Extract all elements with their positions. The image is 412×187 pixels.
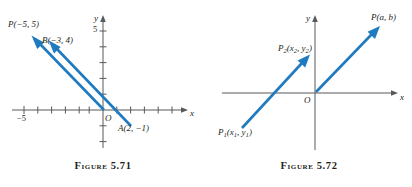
vector-P1P2 — [242, 55, 310, 129]
vector-OP — [32, 36, 105, 111]
point-label-P1: P1(x1, y1) — [218, 128, 252, 138]
point-label-B: B(−3, 4) — [42, 36, 73, 45]
origin-label: O — [105, 114, 112, 123]
y-axis-arrowhead — [100, 15, 106, 22]
x-axis-arrowhead — [181, 107, 188, 113]
figure-5-71: P(−5, 5) B(−3, 4) A(2, −1) y x 5 −5 O Fi… — [0, 0, 206, 187]
x-axis-arrowhead — [391, 90, 398, 96]
x-tick-label-minus5: −5 — [17, 114, 26, 123]
point-label-P1-mid: , y — [237, 127, 246, 137]
y-tick-label-5: 5 — [93, 25, 97, 34]
origin-label: O — [304, 96, 311, 105]
point-label-P2-tail: ) — [309, 43, 312, 53]
point-label-P1-tail: ) — [249, 127, 252, 137]
point-label-P: P(−5, 5) — [8, 20, 39, 29]
point-label-P1-body: (x — [227, 127, 234, 137]
y-axis-label: y — [306, 14, 310, 23]
x-axis-label: x — [400, 93, 404, 102]
vector-AB — [49, 40, 132, 126]
point-label-P: P(a, b) — [371, 13, 396, 22]
figure-pair-container: P(−5, 5) B(−3, 4) A(2, −1) y x 5 −5 O Fi… — [0, 0, 412, 187]
figure-caption-left: Figure 5.71 — [0, 160, 206, 171]
figure-caption-right: Figure 5.72 — [206, 160, 412, 171]
point-label-P2: P2(x2, y2) — [278, 44, 312, 54]
point-label-P2-body: (x — [287, 43, 294, 53]
y-axis-label: y — [94, 14, 98, 23]
point-label-P2-mid: , y — [297, 43, 306, 53]
x-axis-label: x — [190, 109, 194, 118]
point-label-A: A(2, −1) — [118, 124, 149, 133]
vector-OP — [316, 26, 380, 92]
figure-5-72: P(a, b) P2(x2, y2) P1(x1, y1) y x O Figu… — [206, 0, 412, 187]
y-axis-arrowhead — [312, 15, 318, 22]
